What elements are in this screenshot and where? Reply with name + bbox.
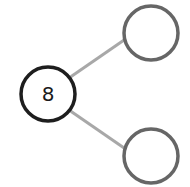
whole-value: 8 (42, 82, 55, 106)
whole-node: 8 (21, 67, 75, 121)
part-node-bottom[interactable] (124, 129, 178, 183)
part-node-top[interactable] (124, 6, 178, 60)
number-bond-diagram: 8 (0, 0, 190, 187)
connector-bottom (69, 110, 127, 150)
connector-top (69, 38, 127, 78)
